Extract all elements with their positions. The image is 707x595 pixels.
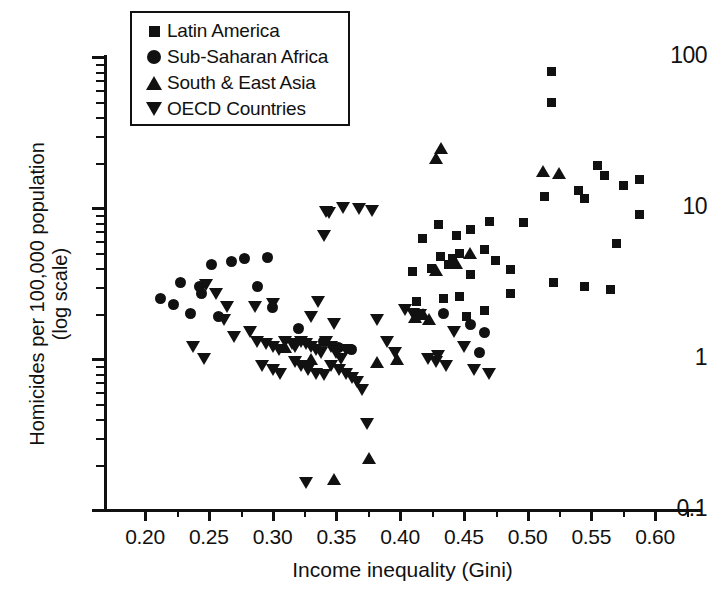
data-point-square <box>580 282 589 291</box>
data-point-circle <box>262 252 273 263</box>
data-point-circle <box>333 342 344 353</box>
data-point-circle <box>226 256 237 267</box>
data-point-triangle-down <box>380 336 394 348</box>
square-icon <box>144 26 164 37</box>
data-point-triangle-down <box>388 347 402 359</box>
data-point-square <box>547 98 556 107</box>
data-point-square <box>519 218 528 227</box>
y-tick-minor <box>96 374 106 376</box>
data-point-triangle-down <box>299 477 313 489</box>
x-tick-minor <box>368 509 370 517</box>
data-point-circle <box>185 308 196 319</box>
y-axis-title: Homicides per 100,000 population (log sc… <box>26 84 72 504</box>
data-point-square <box>574 186 583 195</box>
data-point-triangle-down <box>322 207 336 219</box>
data-point-square <box>455 249 464 258</box>
data-point-triangle-down <box>439 360 453 372</box>
x-axis-title: Income inequality (Gini) <box>104 558 701 582</box>
y-axis-title-line1: Homicides per 100,000 population <box>26 84 49 504</box>
data-point-circle <box>168 299 179 310</box>
x-axis-line <box>104 509 701 512</box>
data-point-triangle-up <box>422 313 436 325</box>
data-point-square <box>593 161 602 170</box>
data-point-circle <box>346 344 357 355</box>
data-point-circle <box>194 281 205 292</box>
legend-item-label: Sub-Saharan Africa <box>167 46 328 68</box>
data-point-triangle-down <box>220 301 234 313</box>
data-point-triangle-down <box>317 369 331 381</box>
data-point-square <box>540 192 549 201</box>
data-point-triangle-down <box>329 347 343 359</box>
data-point-circle <box>196 288 207 299</box>
data-point-triangle-down <box>429 356 443 368</box>
data-point-triangle-down <box>309 344 323 356</box>
data-point-square <box>455 292 464 301</box>
y-tick-minor <box>96 241 106 243</box>
data-point-square <box>619 181 628 190</box>
x-tick-label: 0.60 <box>620 525 690 549</box>
y-tick-minor <box>96 163 106 165</box>
y-tick-minor <box>96 117 106 119</box>
legend-item-triangle-up: South & East Asia <box>144 70 348 96</box>
data-point-circle <box>155 293 166 304</box>
x-tick-major <box>527 509 530 521</box>
data-point-triangle-down <box>250 336 264 348</box>
data-point-triangle-up <box>408 311 422 323</box>
triangle-down-icon <box>144 102 164 116</box>
data-point-circle <box>267 302 278 313</box>
data-point-square <box>408 267 417 276</box>
x-tick-minor <box>623 509 625 517</box>
data-point-square <box>480 245 489 254</box>
x-tick-minor <box>687 509 689 517</box>
legend-item-label: South & East Asia <box>167 72 316 94</box>
data-point-circle <box>479 327 490 338</box>
data-point-triangle-down <box>319 206 333 218</box>
data-point-triangle-down <box>217 314 231 326</box>
y-tick-label: 1 <box>619 344 707 371</box>
data-point-triangle-down <box>299 338 313 350</box>
data-point-triangle-down <box>355 384 369 396</box>
data-point-square <box>612 239 621 248</box>
data-point-square <box>480 306 489 315</box>
data-point-circle <box>206 259 217 270</box>
data-point-circle <box>293 323 304 334</box>
data-point-triangle-up <box>370 356 384 368</box>
data-point-triangle-down <box>314 347 328 359</box>
data-point-square <box>436 252 445 261</box>
data-point-circle <box>438 308 449 319</box>
data-point-square <box>485 217 494 226</box>
data-point-triangle-down <box>304 311 318 323</box>
y-tick-minor <box>96 392 106 394</box>
y-tick-major <box>92 509 106 512</box>
data-point-triangle-down <box>457 341 471 353</box>
y-axis-title-line2: (log scale) <box>49 84 72 504</box>
data-point-triangle-down <box>309 368 323 380</box>
data-point-square <box>462 312 471 321</box>
data-point-triangle-down <box>324 341 338 353</box>
y-tick-minor <box>96 465 106 467</box>
data-point-triangle-up <box>552 167 566 179</box>
x-tick-major <box>654 509 657 521</box>
data-point-circle <box>465 319 476 330</box>
legend: Latin AmericaSub-Saharan AfricaSouth & E… <box>130 11 350 126</box>
data-point-triangle-up <box>449 257 463 269</box>
data-point-triangle-down <box>431 350 445 362</box>
data-point-triangle-down <box>186 341 200 353</box>
data-point-triangle-down <box>285 338 299 350</box>
data-point-triangle-down <box>467 364 481 376</box>
data-point-triangle-down <box>339 344 353 356</box>
y-tick-minor <box>96 419 106 421</box>
data-point-circle <box>213 311 224 322</box>
data-point-triangle-down <box>272 344 286 356</box>
data-point-triangle-up <box>429 152 443 164</box>
data-point-triangle-up <box>390 353 404 365</box>
data-point-triangle-down <box>266 341 280 353</box>
data-point-triangle-up <box>536 165 550 177</box>
data-point-triangle-down <box>294 360 308 372</box>
x-tick-label: 0.25 <box>174 525 244 549</box>
y-tick-label: 0.1 <box>619 495 707 522</box>
y-tick-minor <box>96 136 106 138</box>
y-tick-minor <box>96 64 106 66</box>
data-point-square <box>466 225 475 234</box>
data-point-triangle-down <box>332 364 346 376</box>
